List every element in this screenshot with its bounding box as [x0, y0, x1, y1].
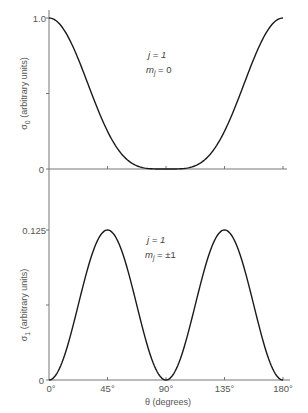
top-y-tick-label-0: 0: [39, 164, 44, 175]
chart-figure: 0 1.0 σ0 (arbitrary units) j = 1 mj = 0 …: [0, 0, 308, 413]
bottom-x-tick-label-45: 45°: [100, 383, 115, 394]
bottom-x-tick-label-0: 0°: [46, 383, 55, 394]
top-y-axis-label: σ0 (arbitrary units): [19, 57, 31, 129]
bottom-annotation: j = 1 mj = ±1: [145, 234, 176, 262]
top-panel: 0 1.0 σ0 (arbitrary units) j = 1 mj = 0: [19, 10, 287, 200]
bottom-ylabel-rest: (arbitrary units): [19, 269, 29, 332]
bottom-y-axis-label: σ1 (arbitrary units): [19, 269, 31, 341]
top-y-tick-label-1.0: 1.0: [33, 13, 46, 24]
bottom-x-tick-label-135: 135°: [215, 383, 235, 394]
bottom-x-tick-label-180: 180°: [273, 383, 293, 394]
bottom-annotation-j: j = 1: [145, 234, 165, 245]
top-series-line: [49, 18, 283, 169]
bottom-panel: 0 0.125 0°45°90°135°180° σ1 (arbitrary u…: [19, 200, 293, 407]
bottom-x-axis-label: θ (degrees): [145, 397, 191, 407]
bottom-annotation-mj: mj = ±1: [145, 249, 176, 262]
top-annotation: j = 1 mj = 0: [146, 49, 172, 77]
bottom-x-tick-label-90: 90°: [159, 383, 174, 394]
top-ylabel-rest: (arbitrary units): [19, 57, 29, 120]
top-annotation-mj: mj = 0: [146, 64, 172, 77]
bottom-y-tick-label-0.125: 0.125: [22, 225, 46, 236]
bottom-y-tick-label-0: 0: [39, 375, 44, 386]
top-annotation-j: j = 1: [146, 49, 166, 60]
